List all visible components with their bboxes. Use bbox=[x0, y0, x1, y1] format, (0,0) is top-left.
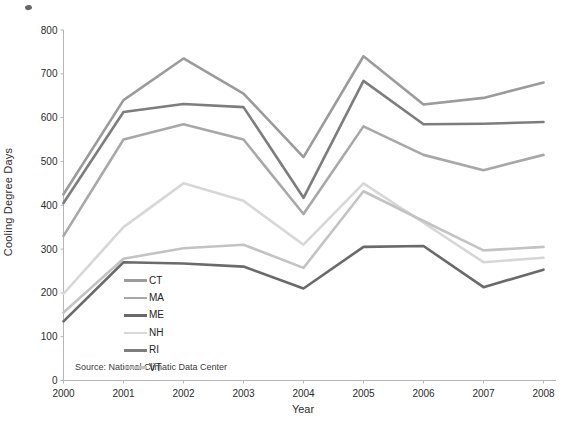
legend-item-ma: MA bbox=[124, 289, 164, 306]
legend-swatch-nh bbox=[124, 332, 147, 335]
x-tick-label: 2007 bbox=[472, 388, 495, 399]
legend: CTMAMENHRIVT bbox=[124, 272, 164, 376]
legend-item-ct: CT bbox=[124, 272, 164, 289]
y-tick-label: 100 bbox=[41, 331, 58, 342]
legend-swatch-ma bbox=[124, 297, 147, 300]
legend-swatch-ct bbox=[124, 279, 147, 282]
x-axis-title: Year bbox=[243, 403, 363, 415]
y-tick-label: 300 bbox=[41, 244, 58, 255]
y-tick-label: 500 bbox=[41, 156, 58, 167]
x-tick-label: 2001 bbox=[112, 388, 135, 399]
legend-label-ma: MA bbox=[149, 293, 164, 303]
x-tick-label: 2002 bbox=[172, 388, 195, 399]
series-line-ct bbox=[64, 56, 544, 194]
y-tick-label: 400 bbox=[41, 200, 58, 211]
legend-swatch-vt bbox=[124, 366, 147, 369]
x-tick-label: 2005 bbox=[352, 388, 375, 399]
cooling-degree-days-chart: 0100200300400500600700800200020012002200… bbox=[0, 0, 576, 436]
y-tick-label: 700 bbox=[41, 68, 58, 79]
y-tick-label: 0 bbox=[52, 375, 58, 386]
y-tick-label: 200 bbox=[41, 287, 58, 298]
legend-swatch-ri bbox=[124, 349, 147, 352]
legend-item-ri: RI bbox=[124, 342, 164, 359]
y-axis-title: Cooling Degree Days bbox=[2, 137, 14, 267]
x-tick-label: 2003 bbox=[232, 388, 255, 399]
legend-item-nh: NH bbox=[124, 324, 164, 341]
y-tick-label: 800 bbox=[41, 25, 58, 36]
x-tick-label: 2008 bbox=[532, 388, 555, 399]
x-tick-label: 2006 bbox=[412, 388, 435, 399]
legend-label-ct: CT bbox=[149, 276, 162, 286]
x-tick-label: 2000 bbox=[52, 388, 75, 399]
x-tick-label: 2004 bbox=[292, 388, 315, 399]
legend-item-me: ME bbox=[124, 307, 164, 324]
legend-swatch-me bbox=[124, 314, 147, 317]
legend-item-vt: VT bbox=[124, 359, 164, 376]
legend-label-nh: NH bbox=[149, 328, 163, 338]
legend-label-me: ME bbox=[149, 310, 164, 320]
legend-label-ri: RI bbox=[149, 345, 159, 355]
legend-label-vt: VT bbox=[149, 363, 162, 373]
y-tick-label: 600 bbox=[41, 112, 58, 123]
